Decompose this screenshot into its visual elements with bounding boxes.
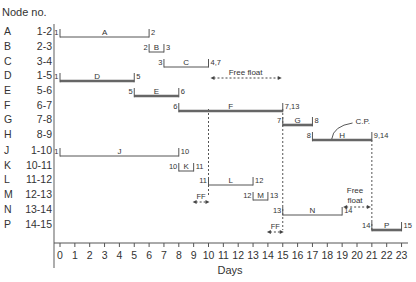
end-node-label: 5	[136, 72, 140, 81]
x-tick-label: 18	[321, 249, 333, 261]
x-tick-label: 16	[292, 249, 304, 261]
start-node-label: 6	[173, 102, 177, 111]
x-tick-label: 10	[203, 249, 215, 261]
x-tick-label: 8	[176, 249, 182, 261]
x-tick-label: 5	[131, 249, 137, 261]
arrowhead-right-icon	[280, 230, 284, 234]
start-node-label: 14	[362, 221, 370, 230]
x-tick-label: 21	[366, 249, 378, 261]
activity-label: D	[94, 72, 100, 81]
plot-area: 01234567891011121314151617181920212223Da…	[0, 0, 416, 282]
x-tick-label: 11	[218, 249, 229, 261]
end-node-label: 2	[151, 28, 155, 37]
start-node-label: 1	[54, 28, 58, 37]
end-node-label: 10	[181, 147, 189, 156]
x-tick-label: 17	[307, 249, 319, 261]
activity-label: E	[154, 87, 159, 96]
activity-label: F	[228, 102, 233, 111]
activity-label: J	[117, 147, 121, 156]
start-node-label: 8	[307, 131, 311, 140]
arrowhead-left-icon	[211, 76, 215, 80]
arrowhead-left-icon	[193, 200, 197, 204]
start-node-label: 1	[54, 147, 58, 156]
gantt-chart: Node no. A1-2B2-3C3-4D1-5E5-6F6-7G7-8H8-…	[0, 0, 416, 282]
activity-label: K	[184, 162, 190, 171]
x-tick-label: 2	[87, 249, 93, 261]
activity-label: C	[183, 58, 189, 67]
x-tick-label: 4	[116, 249, 122, 261]
start-node-label: 11	[199, 176, 207, 185]
start-node-label: 13	[273, 206, 281, 215]
start-node-label: 2	[143, 43, 147, 52]
x-tick-label: 15	[277, 249, 289, 261]
x-tick-label: 19	[336, 249, 348, 261]
start-node-label: 12	[243, 191, 251, 200]
activity-label: H	[339, 131, 345, 140]
x-tick-label: 1	[72, 249, 78, 261]
x-tick-label: 0	[57, 249, 63, 261]
end-node-label: 13	[270, 191, 278, 200]
start-node-label: 5	[129, 87, 133, 96]
arrowhead-left-icon	[267, 230, 271, 234]
end-node-label: 11	[196, 162, 204, 171]
x-tick-label: 9	[191, 249, 197, 261]
arrowhead-right-icon	[206, 200, 210, 204]
end-node-label: 4,7	[211, 58, 221, 67]
end-node-label: 3	[166, 43, 170, 52]
x-tick-label: 14	[262, 249, 274, 261]
end-node-label: 9,14	[374, 131, 389, 140]
x-tick-label: 3	[102, 249, 108, 261]
start-node-label: 7	[277, 116, 281, 125]
x-tick-label: 12	[232, 249, 244, 261]
end-node-label: 15	[404, 221, 412, 230]
activity-label: N	[310, 206, 316, 215]
start-node-label: 3	[158, 58, 162, 67]
activity-label: B	[154, 43, 159, 52]
activity-label: G	[294, 116, 300, 125]
arrowhead-right-icon	[367, 205, 371, 209]
start-node-label: 10	[169, 162, 177, 171]
free-float-label: Free float	[229, 68, 264, 77]
arrowhead-right-icon	[278, 76, 282, 80]
x-axis-label: Days	[217, 264, 243, 276]
x-tick-label: 6	[146, 249, 152, 261]
free-float-label: Free	[347, 186, 364, 195]
x-tick-label: 7	[161, 249, 167, 261]
end-node-label: 7,13	[285, 102, 300, 111]
end-node-label: 8	[314, 116, 318, 125]
ff-label: FF	[196, 192, 206, 201]
end-node-label: 12	[255, 176, 263, 185]
activity-label: A	[102, 28, 108, 37]
x-tick-label: 13	[247, 249, 259, 261]
activity-label: L	[229, 176, 234, 185]
activity-label: P	[384, 221, 389, 230]
free-float-label: float	[347, 196, 363, 205]
x-tick-label: 23	[396, 249, 408, 261]
x-tick-label: 22	[381, 249, 393, 261]
x-tick-label: 20	[351, 249, 363, 261]
activity-label: M	[257, 191, 264, 200]
start-node-label: 1	[54, 72, 58, 81]
ff-label: FF	[271, 222, 281, 231]
end-node-label: 6	[181, 87, 185, 96]
cp-label: C.P.	[356, 117, 371, 126]
